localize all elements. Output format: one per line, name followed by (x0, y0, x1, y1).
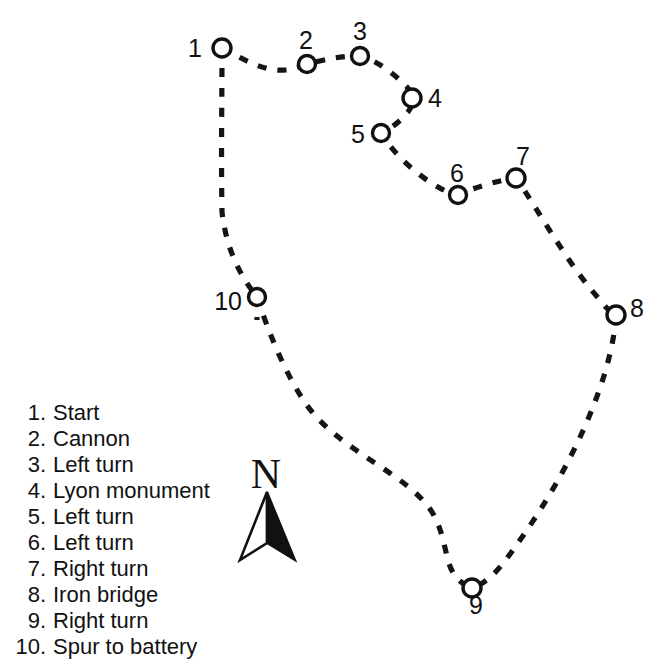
legend-item-label: Lyon monument (46, 478, 210, 504)
legend-item-number: 4. (12, 478, 46, 504)
legend-item: 1.Start (12, 400, 272, 426)
legend-item: 10.Spur to battery (12, 634, 272, 660)
route-marker-label-3: 3 (353, 17, 367, 45)
route-marker-label-7: 7 (516, 142, 530, 170)
legend-item-number: 3. (12, 452, 46, 478)
route-segment-1 (222, 48, 616, 315)
route-marker-10[interactable] (249, 289, 266, 306)
legend-item-label: Iron bridge (46, 582, 158, 608)
route-marker-5[interactable] (373, 125, 390, 142)
legend-item-label: Right turn (46, 608, 148, 634)
route-marker-7[interactable] (507, 169, 525, 187)
legend-item: 5.Left turn (12, 504, 272, 530)
legend-item-label: Left turn (46, 504, 134, 530)
legend-item: 6.Left turn (12, 530, 272, 556)
legend-item-label: Spur to battery (46, 634, 197, 660)
route-segment-4 (472, 315, 616, 588)
legend-item-label: Right turn (46, 556, 148, 582)
legend-item: 9.Right turn (12, 608, 272, 634)
route-marker-label-8: 8 (630, 294, 644, 322)
route-marker-label-6: 6 (450, 159, 464, 187)
legend-item-label: Start (46, 400, 99, 426)
legend-item-label: Left turn (46, 452, 134, 478)
legend-item-number: 8. (12, 582, 46, 608)
legend-item: 8.Iron bridge (12, 582, 272, 608)
legend-item-number: 5. (12, 504, 46, 530)
legend-item-number: 2. (12, 426, 46, 452)
route-marker-2[interactable] (299, 56, 316, 73)
legend-item-number: 6. (12, 530, 46, 556)
route-marker-label-4: 4 (428, 84, 442, 112)
route-marker-label-10: 10 (214, 287, 242, 315)
route-marker-label-2: 2 (299, 26, 313, 54)
route-map-page: 12345678910 N 1.Start2.Cannon3.Left turn… (0, 0, 672, 671)
route-marker-label-5: 5 (351, 120, 365, 148)
route-legend: 1.Start2.Cannon3.Left turn4.Lyon monumen… (12, 400, 272, 660)
legend-item-label: Left turn (46, 530, 134, 556)
legend-item: 4.Lyon monument (12, 478, 272, 504)
legend-item: 7.Right turn (12, 556, 272, 582)
legend-item-number: 7. (12, 556, 46, 582)
route-marker-label-1: 1 (188, 34, 202, 62)
route-marker-4[interactable] (403, 89, 421, 107)
legend-item-label: Cannon (46, 426, 130, 452)
legend-item-number: 1. (12, 400, 46, 426)
legend-item-number: 9. (12, 608, 46, 634)
route-marker-8[interactable] (607, 306, 625, 324)
legend-item-number: 10. (12, 634, 46, 660)
route-segment-2 (222, 48, 257, 297)
legend-item: 2.Cannon (12, 426, 272, 452)
route-marker-1[interactable] (213, 39, 231, 57)
route-marker-label-9: 9 (469, 591, 483, 619)
route-marker-3[interactable] (352, 48, 369, 65)
route-marker-6[interactable] (450, 187, 467, 204)
legend-item: 3.Left turn (12, 452, 272, 478)
route-dashed-path-group (222, 48, 616, 588)
